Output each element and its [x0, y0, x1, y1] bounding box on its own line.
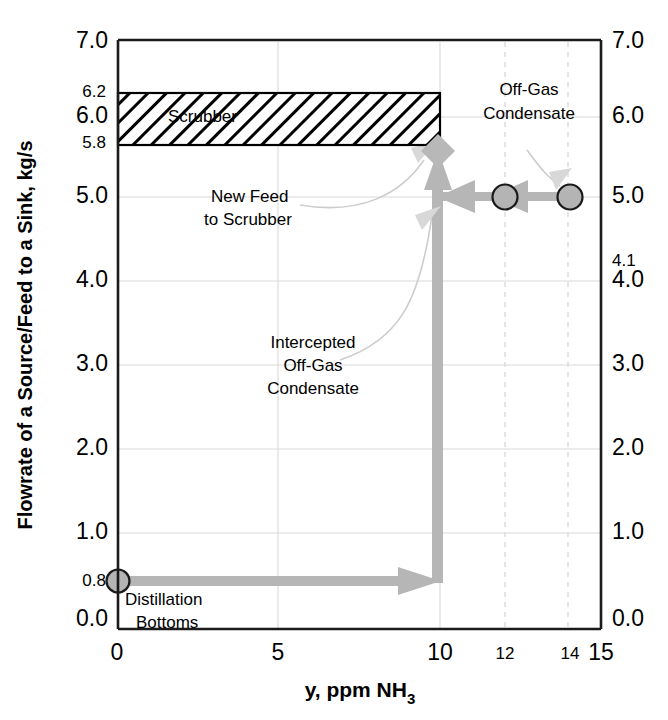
annotation-line: Intercepted — [270, 333, 355, 352]
ytick-left: 0.0 — [76, 605, 108, 631]
y-axis-right-labels: 7.0 6.0 5.0 4.1 4.0 3.0 2.0 1.0 0.0 — [612, 27, 644, 631]
ytick-right: 1.0 — [612, 518, 644, 544]
annotation-line: Off-Gas — [283, 356, 342, 375]
y-axis-left-labels: 7.0 6.2 6.0 5.8 5.0 4.0 3.0 2.0 1.0 0.8 … — [76, 27, 108, 631]
chart-figure: Scrubber 7.0 6.2 6.0 5.8 5.0 4.0 3.0 2.0… — [0, 0, 668, 720]
ytick-left: 2.0 — [76, 434, 108, 460]
chart-canvas: Scrubber 7.0 6.2 6.0 5.8 5.0 4.0 3.0 2.0… — [0, 0, 668, 720]
marker-offgas-12 — [493, 185, 518, 210]
x-axis-title: y, ppm NH3 — [305, 678, 416, 707]
ytick-left: 5.0 — [76, 182, 108, 208]
ytick-left: 7.0 — [76, 27, 108, 53]
annotation-distillation-bottoms: Distillation Bottoms — [125, 590, 202, 632]
x-axis-title-sub: 3 — [407, 690, 415, 707]
xtick: 12 — [496, 644, 515, 663]
annotation-line: Bottoms — [136, 613, 198, 632]
annotation-new-feed: New Feed to Scrubber — [204, 187, 292, 229]
marker-offgas-14 — [558, 185, 583, 210]
xtick: 5 — [272, 639, 285, 665]
ytick-right: 6.0 — [612, 102, 644, 128]
ytick-right: 3.0 — [612, 350, 644, 376]
ytick-right: 2.0 — [612, 434, 644, 460]
ytick-left: 5.8 — [82, 133, 106, 152]
ytick-left: 1.0 — [76, 518, 108, 544]
svg-text:y, ppm NH3: y, ppm NH3 — [305, 678, 416, 707]
ytick-right: 7.0 — [612, 27, 644, 53]
xtick: 10 — [427, 639, 453, 665]
annotation-line: Distillation — [125, 590, 202, 609]
data-markers — [107, 134, 583, 593]
ytick-left: 0.8 — [82, 571, 106, 590]
x-axis-labels: 0 5 10 12 14 15 — [111, 639, 614, 665]
xtick: 15 — [588, 639, 614, 665]
ytick-left: 6.0 — [76, 102, 108, 128]
annotation-line: Condensate — [483, 104, 575, 123]
ytick-left: 3.0 — [76, 350, 108, 376]
annotation-line: Condensate — [267, 379, 359, 398]
ytick-left: 4.0 — [76, 266, 108, 292]
annotation-line: New Feed — [211, 187, 288, 206]
y-axis-title: Flowrate of a Source/Feed to a Sink, kg/… — [14, 141, 36, 530]
ytick-right: 4.0 — [612, 266, 644, 292]
annotation-line: to Scrubber — [204, 210, 292, 229]
x-axis-title-main: y, ppm NH — [305, 678, 407, 701]
ytick-right: 5.0 — [612, 182, 644, 208]
ytick-left: 6.2 — [82, 82, 106, 101]
ytick-right: 0.0 — [612, 605, 644, 631]
scrubber-region — [118, 93, 440, 145]
scrubber-region-label: Scrubber — [168, 107, 237, 126]
xtick: 14 — [561, 644, 580, 663]
annotation-line: Off-Gas — [499, 80, 558, 99]
annotation-offgas-condensate: Off-Gas Condensate — [483, 80, 575, 123]
xtick: 0 — [111, 639, 124, 665]
